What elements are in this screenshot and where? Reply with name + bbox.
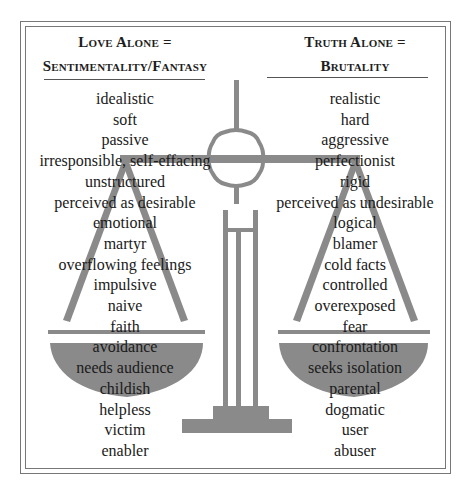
list-item: perfectionist <box>255 151 455 172</box>
list-item: cold facts <box>255 255 455 276</box>
list-item: logical <box>255 213 455 234</box>
list-item: overflowing feelings <box>25 255 225 276</box>
list-item: emotional <box>25 213 225 234</box>
pillar-center-rod <box>236 228 241 406</box>
list-item: controlled <box>255 275 455 296</box>
right-heading-line2: Brutality <box>255 54 455 78</box>
list-item: confrontation <box>255 337 455 358</box>
list-item: overexposed <box>255 296 455 317</box>
left-heading: Love Alone = Sentimentality/Fantasy <box>25 30 225 78</box>
list-item: perceived as undesirable <box>255 193 455 214</box>
list-item: enabler <box>25 441 225 462</box>
right-heading: Truth Alone = Brutality <box>255 30 455 78</box>
list-item: impulsive <box>25 275 225 296</box>
left-heading-rule <box>44 79 205 80</box>
list-item: idealistic <box>25 89 225 110</box>
list-item: blamer <box>255 234 455 255</box>
list-item: perceived as desirable <box>25 193 225 214</box>
list-item: passive <box>25 130 225 151</box>
list-item: unstructured <box>25 172 225 193</box>
list-item: dogmatic <box>255 400 455 421</box>
list-item: victim <box>25 420 225 441</box>
list-item: avoidance <box>25 337 225 358</box>
left-heading-line1: Love Alone = <box>25 30 225 54</box>
list-item: rigid <box>255 172 455 193</box>
left-trait-list: idealistic soft passive irresponsible, s… <box>25 89 225 462</box>
list-item: user <box>255 420 455 441</box>
list-item: soft <box>25 110 225 131</box>
list-item: abuser <box>255 441 455 462</box>
list-item: martyr <box>25 234 225 255</box>
list-item: needs audience <box>25 358 225 379</box>
list-item: childish <box>25 379 225 400</box>
left-heading-line2: Sentimentality/Fantasy <box>25 54 225 78</box>
list-item: seeks isolation <box>255 358 455 379</box>
right-heading-line1: Truth Alone = <box>255 30 455 54</box>
list-item: irresponsible, self-effacing <box>25 151 225 172</box>
right-heading-rule <box>267 77 428 78</box>
list-item: aggressive <box>255 130 455 151</box>
list-item: hard <box>255 110 455 131</box>
list-item: naive <box>25 296 225 317</box>
scale-top-rod <box>234 80 239 132</box>
list-item: helpless <box>25 400 225 421</box>
list-item: parental <box>255 379 455 400</box>
list-item: faith <box>25 317 225 338</box>
list-item: fear <box>255 317 455 338</box>
right-trait-list: realistic hard aggressive perfectionist … <box>255 89 455 462</box>
list-item: realistic <box>255 89 455 110</box>
